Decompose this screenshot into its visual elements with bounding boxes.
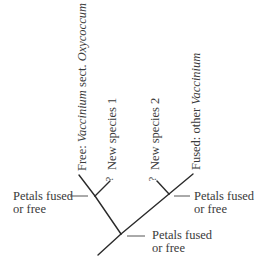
new-species-1-branch bbox=[95, 181, 110, 196]
taxon-label-other-vaccinium: Fused: other Vaccinium bbox=[190, 53, 203, 170]
node-label-left: Petals fused or free bbox=[13, 190, 73, 216]
root-branch bbox=[98, 234, 121, 255]
phylogeny-diagram: Free: Vaccinium sect. Oxycoccum ? New sp… bbox=[0, 0, 265, 268]
oxycoccum-branch bbox=[79, 175, 95, 196]
taxon-label-new-species-2: New species 2 bbox=[149, 98, 162, 170]
other-vaccinium-branch bbox=[169, 174, 193, 194]
taxon-label-new-species-1: New species 1 bbox=[106, 98, 119, 170]
uncertain-mark-new-species-2: ? bbox=[148, 177, 158, 181]
taxon-label-oxycoccum: Free: Vaccinium sect. Oxycoccum bbox=[76, 3, 89, 171]
tree-branches bbox=[0, 0, 265, 268]
node-label-root: Petals fused or free bbox=[152, 229, 212, 255]
uncertain-mark-new-species-1: ? bbox=[105, 177, 115, 181]
left-stem-branch bbox=[95, 196, 121, 234]
node-label-right: Petals fused or free bbox=[194, 190, 254, 216]
new-species-2-branch bbox=[157, 181, 169, 194]
